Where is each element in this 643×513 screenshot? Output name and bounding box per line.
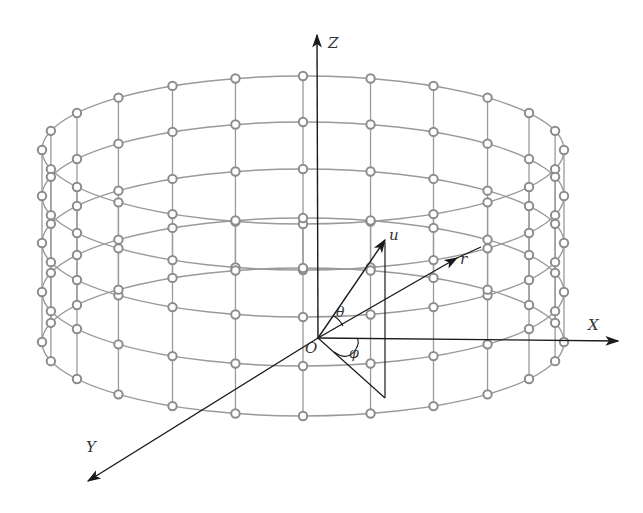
array-node: [114, 244, 122, 252]
y-axis: [88, 338, 318, 481]
array-node: [38, 338, 46, 346]
array-node: [551, 220, 559, 228]
array-node: [73, 325, 81, 333]
array-node: [551, 211, 559, 219]
array-node: [73, 276, 81, 284]
array-node: [525, 276, 533, 284]
array-node: [560, 338, 568, 346]
array-node: [429, 128, 437, 136]
array-node: [299, 264, 307, 272]
array-node: [73, 202, 81, 210]
array-node: [73, 301, 81, 309]
array-node: [168, 82, 176, 90]
array-node: [299, 165, 307, 173]
array-node: [429, 224, 437, 232]
z-axis-label: Z: [328, 36, 338, 51]
array-node: [366, 266, 374, 274]
array-node: [231, 359, 239, 367]
array-node: [525, 375, 533, 383]
array-node: [560, 192, 568, 200]
array-node: [429, 352, 437, 360]
array-node: [366, 216, 374, 224]
array-node: [551, 173, 559, 181]
array-node: [483, 244, 491, 252]
array-node: [483, 235, 491, 243]
array-node: [168, 352, 176, 360]
r-vector-label: r: [460, 252, 467, 267]
array-node: [47, 127, 55, 135]
array-node: [47, 307, 55, 315]
array-node: [483, 198, 491, 206]
array-node: [231, 167, 239, 175]
array-node: [73, 251, 81, 259]
array-node: [47, 269, 55, 277]
array-node: [429, 175, 437, 183]
array-node: [47, 211, 55, 219]
array-node: [299, 118, 307, 126]
array-node: [299, 72, 307, 80]
array-node: [525, 109, 533, 117]
array-node: [551, 269, 559, 277]
array-node: [73, 229, 81, 237]
array-node: [168, 128, 176, 136]
array-node: [38, 192, 46, 200]
array-node: [560, 239, 568, 247]
array-node: [114, 390, 122, 398]
array-node: [168, 402, 176, 410]
array-node: [525, 202, 533, 210]
array-node: [168, 303, 176, 311]
array-node: [299, 313, 307, 321]
array-node: [73, 375, 81, 383]
array-node: [299, 362, 307, 370]
theta-angle-label: θ: [336, 305, 344, 319]
array-node: [231, 216, 239, 224]
array-node: [38, 146, 46, 154]
array-node: [231, 120, 239, 128]
array-node: [483, 139, 491, 147]
array-node: [366, 409, 374, 417]
array-node: [429, 82, 437, 90]
array-node: [231, 409, 239, 417]
array-node: [114, 198, 122, 206]
u-vector: [318, 240, 385, 338]
array-node: [38, 239, 46, 247]
array-node: [168, 256, 176, 264]
array-node: [551, 258, 559, 266]
array-node: [551, 127, 559, 135]
array-node: [366, 167, 374, 175]
array-node: [525, 229, 533, 237]
array-node: [525, 251, 533, 259]
array-node: [114, 139, 122, 147]
array-node: [299, 412, 307, 420]
array-node: [47, 220, 55, 228]
array-node: [231, 74, 239, 82]
cylindrical-array-diagram: [0, 0, 643, 513]
array-node: [366, 310, 374, 318]
array-node: [231, 310, 239, 318]
array-node: [483, 340, 491, 348]
array-node: [429, 303, 437, 311]
array-node: [114, 186, 122, 194]
array-node: [483, 93, 491, 101]
array-node: [429, 274, 437, 282]
array-node: [168, 175, 176, 183]
array-node: [47, 258, 55, 266]
x-axis: [318, 338, 618, 341]
array-node: [47, 173, 55, 181]
array-node: [525, 301, 533, 309]
array-node: [429, 210, 437, 218]
array-node: [560, 288, 568, 296]
array-node: [551, 357, 559, 365]
array-node: [525, 183, 533, 191]
array-node: [73, 155, 81, 163]
y-axis-label: Y: [86, 440, 96, 455]
array-node: [114, 93, 122, 101]
phi-angle-label: φ: [349, 346, 359, 360]
array-node: [483, 285, 491, 293]
array-node: [231, 266, 239, 274]
array-node: [366, 74, 374, 82]
array-node: [483, 390, 491, 398]
array-node: [73, 109, 81, 117]
array-node: [168, 224, 176, 232]
array-node: [168, 274, 176, 282]
